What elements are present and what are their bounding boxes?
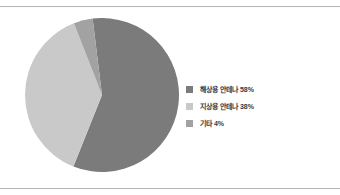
legend-item-sea-antenna[interactable]: 해상용 안테나 58% — [186, 81, 326, 97]
legend-item-other[interactable]: 기타 4% — [186, 115, 326, 131]
legend-swatch-icon-sea-antenna — [186, 86, 193, 93]
plot-area: 해상용 안테나 58% 지상용 안테나 38% 기타 4% — [0, 8, 340, 187]
pie-chart-svg — [25, 18, 179, 172]
legend-label-ground-antenna: 지상용 안테나 38% — [200, 102, 254, 111]
top-divider — [0, 6, 340, 7]
legend-swatch-icon-other — [186, 120, 193, 127]
legend-label-other: 기타 4% — [200, 119, 224, 128]
legend-item-ground-antenna[interactable]: 지상용 안테나 38% — [186, 98, 326, 114]
chart-figure: 해상용 안테나 58% 지상용 안테나 38% 기타 4% — [0, 0, 340, 195]
bottom-divider — [0, 188, 340, 189]
legend-label-sea-antenna: 해상용 안테나 58% — [200, 85, 254, 94]
chart-legend: 해상용 안테나 58% 지상용 안테나 38% 기타 4% — [186, 81, 326, 132]
pie-slices — [25, 18, 179, 172]
legend-swatch-icon-ground-antenna — [186, 103, 193, 110]
pie-chart — [25, 18, 179, 172]
